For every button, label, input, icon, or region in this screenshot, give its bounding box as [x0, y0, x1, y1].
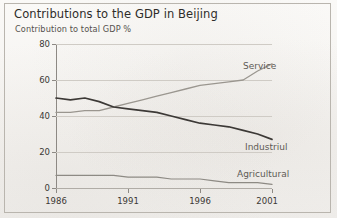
chart-screenshot: Contributions to the GDP in Beijing Cont…	[0, 0, 337, 218]
x-tick-label-2001: 2001	[256, 196, 278, 206]
gridline-40	[56, 116, 272, 117]
x-tick-label-1996: 1996	[189, 196, 211, 206]
plot-area	[56, 44, 272, 188]
series-label-industrial: Industriul	[245, 142, 287, 152]
x-tick-mark-1996	[200, 189, 201, 193]
gridline-60	[56, 80, 272, 81]
x-tick-mark-1991	[128, 189, 129, 193]
y-tick-label-60: 60	[24, 75, 50, 85]
y-tick-label-40: 40	[24, 111, 50, 121]
y-tick-label-80: 80	[24, 39, 50, 49]
gridline-0	[56, 188, 272, 189]
chart-subtitle: Contribution to total GDP %	[15, 24, 131, 34]
gridline-20	[56, 152, 272, 153]
series-label-agricultural: Agricultural	[237, 169, 289, 179]
x-tick-mark-2001	[272, 189, 273, 193]
gridline-80	[56, 44, 272, 45]
y-axis-tick-labels: 80 60 40 20 0	[20, 44, 50, 188]
y-tick-label-0: 0	[24, 183, 50, 193]
chart-title: Contributions to the GDP in Beijing	[14, 7, 218, 21]
x-tick-mark-1986	[56, 189, 57, 193]
y-tick-label-20: 20	[24, 147, 50, 157]
x-tick-label-1986: 1986	[45, 196, 67, 206]
series-label-service: Service	[243, 61, 276, 71]
x-tick-label-1991: 1991	[117, 196, 139, 206]
